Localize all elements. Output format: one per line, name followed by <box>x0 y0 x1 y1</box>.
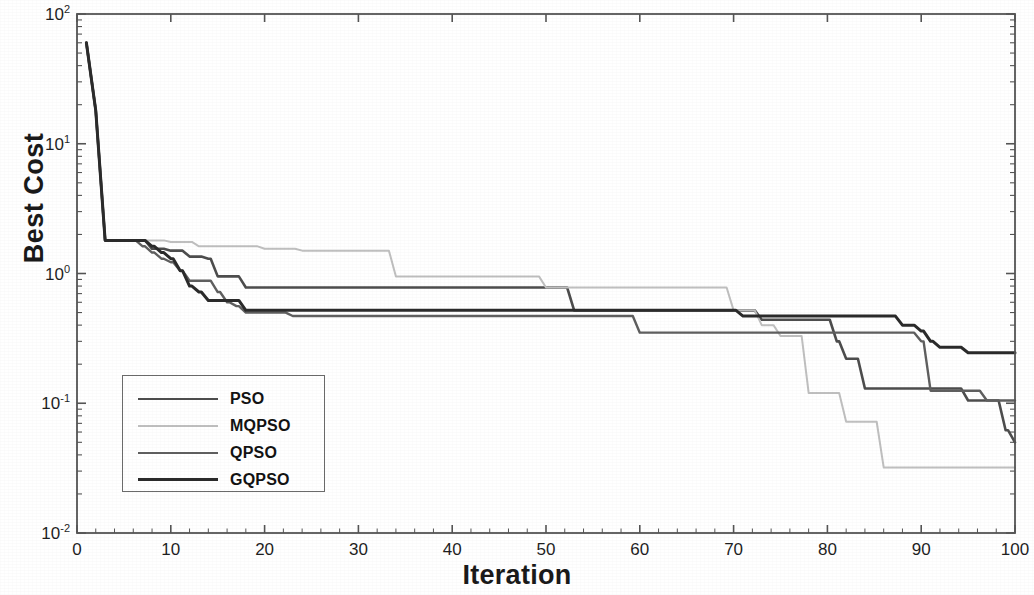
x-tick-label: 30 <box>328 540 388 560</box>
legend-item-gqpso: GQPSO <box>123 465 326 494</box>
legend-label: QPSO <box>230 444 277 462</box>
y-tick-label: 100 <box>8 263 70 285</box>
x-tick-label: 70 <box>704 540 764 560</box>
x-tick-label: 10 <box>141 540 201 560</box>
y-axis-label-wrapper: Best Cost <box>14 138 54 258</box>
legend: PSOMQPSOQPSOGQPSO <box>122 375 325 492</box>
legend-line-swatch <box>138 452 218 454</box>
x-tick-label: 20 <box>235 540 295 560</box>
x-tick-label: 80 <box>797 540 857 560</box>
legend-item-mqpso: MQPSO <box>123 411 326 440</box>
legend-item-qpso: QPSO <box>123 438 326 467</box>
x-tick-label: 90 <box>891 540 951 560</box>
plot-canvas <box>0 0 1034 595</box>
legend-label: GQPSO <box>230 471 290 489</box>
legend-item-pso: PSO <box>123 384 326 413</box>
y-tick-label: 10‐1 <box>8 392 70 414</box>
x-tick-label: 60 <box>610 540 670 560</box>
chart-figure: Best Cost Iteration 10210110010‐110‐2 01… <box>0 0 1034 595</box>
legend-line-swatch <box>138 398 218 400</box>
x-tick-label: 40 <box>422 540 482 560</box>
legend-line-swatch <box>138 425 218 427</box>
legend-label: MQPSO <box>230 417 291 435</box>
x-tick-label: 100 <box>985 540 1034 560</box>
x-axis-label: Iteration <box>0 560 1034 591</box>
legend-line-swatch <box>138 478 218 481</box>
x-tick-label: 50 <box>516 540 576 560</box>
legend-label: PSO <box>230 390 264 408</box>
x-tick-label: 0 <box>47 540 107 560</box>
y-tick-label: 101 <box>8 133 70 155</box>
y-tick-label: 102 <box>8 3 70 25</box>
